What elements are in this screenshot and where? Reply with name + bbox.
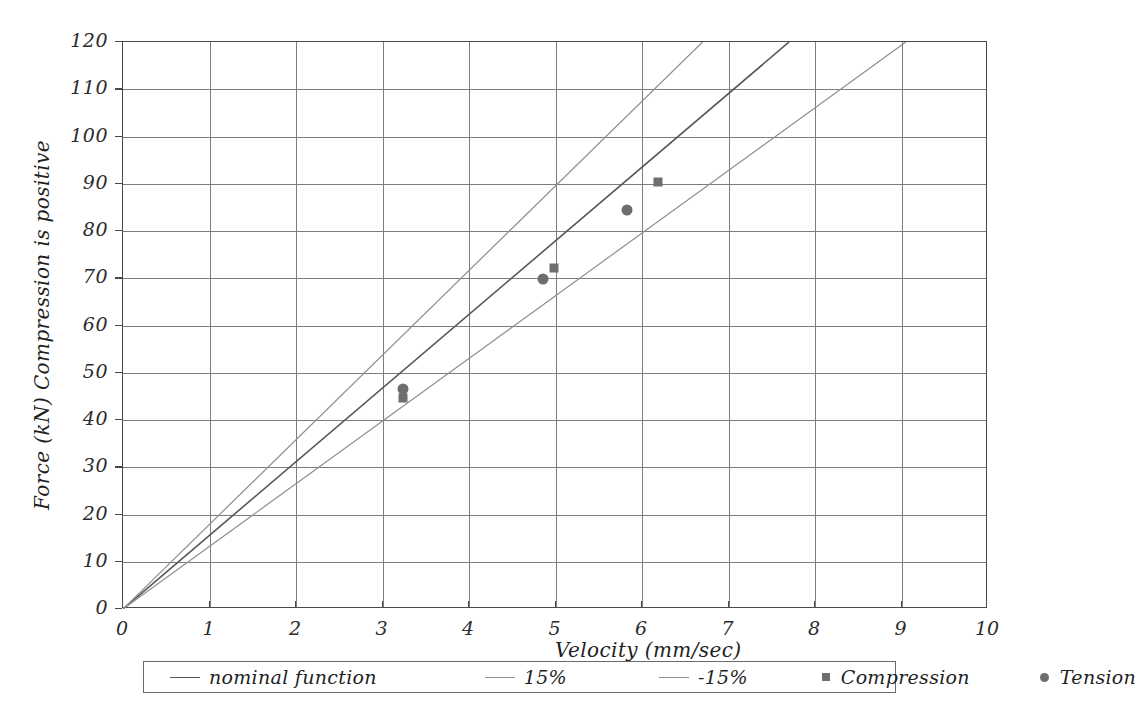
y-tick-mark xyxy=(115,230,122,231)
x-tick-mark xyxy=(382,601,383,608)
x-tick-label: 9 xyxy=(894,617,906,639)
data-point-circle xyxy=(622,204,633,215)
data-point-square xyxy=(399,394,408,403)
legend-item: 15% xyxy=(485,666,567,688)
legend-line-swatch-icon xyxy=(170,677,200,678)
legend-label: Compression xyxy=(841,666,970,688)
x-tick-label: 0 xyxy=(116,617,128,639)
y-tick-mark xyxy=(115,183,122,184)
y-tick-mark xyxy=(115,514,122,515)
x-axis-title: Velocity (mm/sec) xyxy=(555,638,742,662)
x-tick-label: 8 xyxy=(808,617,820,639)
y-tick-label: 100 xyxy=(70,124,108,146)
x-tick-label: 5 xyxy=(548,617,560,639)
y-tick-mark xyxy=(115,277,122,278)
chart-legend: nominal function15%-15%CompressionTensio… xyxy=(143,661,896,693)
x-tick-label: 2 xyxy=(289,617,301,639)
y-tick-label: 20 xyxy=(83,502,108,524)
data-point-square xyxy=(549,263,558,272)
y-tick-label: 30 xyxy=(83,454,108,476)
legend-square-marker-icon xyxy=(822,673,830,681)
x-tick-mark xyxy=(468,601,469,608)
y-tick-label: 120 xyxy=(70,29,108,51)
legend-line-swatch-icon xyxy=(485,677,515,678)
data-point-circle xyxy=(538,274,549,285)
y-tick-label: 80 xyxy=(83,218,108,240)
legend-item: nominal function xyxy=(170,666,377,688)
y-tick-mark xyxy=(115,136,122,137)
series-line xyxy=(123,42,703,609)
legend-line-swatch-icon xyxy=(659,677,689,678)
plot-area xyxy=(122,41,987,608)
legend-item: Compression xyxy=(812,666,970,688)
x-tick-mark xyxy=(209,601,210,608)
y-tick-label: 60 xyxy=(83,313,108,335)
x-tick-mark xyxy=(295,601,296,608)
x-tick-mark xyxy=(814,601,815,608)
y-tick-label: 50 xyxy=(83,360,108,382)
series-line xyxy=(123,42,789,609)
legend-item: -15% xyxy=(659,666,748,688)
data-point-circle xyxy=(398,383,409,394)
x-tick-mark xyxy=(641,601,642,608)
y-tick-mark xyxy=(115,561,122,562)
x-tick-label: 6 xyxy=(635,617,647,639)
x-tick-label: 1 xyxy=(202,617,214,639)
x-tick-label: 4 xyxy=(462,617,474,639)
x-tick-label: 7 xyxy=(721,617,733,639)
x-tick-mark xyxy=(728,601,729,608)
legend-circle-marker-icon xyxy=(1040,673,1049,682)
legend-label: nominal function xyxy=(209,666,377,688)
x-tick-mark xyxy=(901,601,902,608)
y-tick-mark xyxy=(115,466,122,467)
series-lines xyxy=(123,42,988,609)
y-tick-mark xyxy=(115,419,122,420)
y-axis-title-wrapper: Force (kN) Compression is positive xyxy=(32,41,34,608)
y-tick-mark xyxy=(115,41,122,42)
y-tick-mark xyxy=(115,88,122,89)
y-tick-label: 90 xyxy=(83,171,108,193)
legend-item: Tension xyxy=(1030,666,1136,688)
y-tick-mark xyxy=(115,325,122,326)
y-tick-label: 110 xyxy=(70,76,108,98)
y-tick-label: 0 xyxy=(95,596,108,618)
data-point-square xyxy=(654,177,663,186)
y-tick-label: 10 xyxy=(83,549,108,571)
legend-label: 15% xyxy=(524,666,567,688)
legend-label: -15% xyxy=(698,666,748,688)
x-tick-label: 10 xyxy=(975,617,999,639)
y-tick-label: 70 xyxy=(83,265,108,287)
y-axis-title: Force (kN) Compression is positive xyxy=(30,140,54,510)
legend-label: Tension xyxy=(1060,666,1136,688)
x-tick-label: 3 xyxy=(375,617,387,639)
y-tick-label: 40 xyxy=(83,407,108,429)
y-tick-mark xyxy=(115,608,122,609)
y-tick-mark xyxy=(115,372,122,373)
x-tick-mark xyxy=(555,601,556,608)
series-line xyxy=(123,42,906,609)
